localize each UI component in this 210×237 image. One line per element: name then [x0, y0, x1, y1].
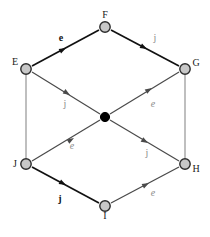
edge-label-C-G: e: [151, 98, 156, 109]
node-label-J: J: [13, 158, 17, 169]
edge-C-G: [110, 72, 179, 114]
node-E[interactable]: [21, 64, 31, 74]
node-center[interactable]: [100, 112, 109, 121]
edge-label-E-C: j: [63, 98, 67, 109]
node-label-I: I: [103, 210, 106, 221]
node-F[interactable]: [100, 22, 110, 32]
arrowhead-F-G: [140, 43, 149, 51]
graph-canvas: F E G J H I e j j e e j j e: [0, 0, 210, 237]
node-label-H: H: [192, 163, 199, 174]
node-label-E: E: [12, 56, 18, 67]
edge-label-J-I: j: [57, 193, 61, 204]
edge-J-I: [32, 167, 99, 203]
graph-diagram: F E G J H I e j j e e j j e: [0, 0, 210, 237]
edge-label-C-H: j: [145, 147, 149, 158]
edge-label-J-C: e: [70, 140, 75, 151]
edge-label-I-H: e: [151, 187, 156, 198]
node-label-G: G: [192, 57, 199, 68]
node-J[interactable]: [21, 159, 31, 169]
arrowhead-I-H: [142, 181, 151, 189]
node-H[interactable]: [180, 159, 190, 169]
edge-E-F: [32, 30, 99, 66]
edge-J-C: [32, 120, 100, 161]
node-label-F: F: [102, 9, 108, 20]
edge-label-E-F: e: [59, 32, 64, 43]
node-G[interactable]: [180, 64, 190, 74]
edge-label-F-G: j: [153, 32, 157, 43]
